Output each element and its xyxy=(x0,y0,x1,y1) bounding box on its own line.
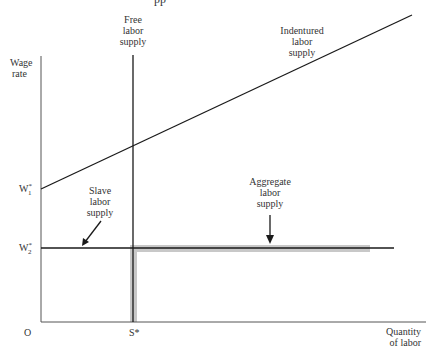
slave-arrow xyxy=(85,221,101,242)
y-axis-label: Wage rate xyxy=(10,57,33,79)
indentured-label: Indentured labor supply xyxy=(272,25,332,58)
indentured-labor-supply-line xyxy=(41,15,412,189)
slave-label: Slave labor supply xyxy=(80,185,120,218)
title-fragment: pp xyxy=(140,0,180,5)
aggregate-label: Aggregate labor supply xyxy=(240,176,300,209)
s-star-label: S* xyxy=(129,327,140,338)
origin-label: O xyxy=(24,327,31,338)
free-label: Free labor supply xyxy=(113,14,153,47)
x-axis-label: Quantity of labor xyxy=(386,326,421,348)
labor-supply-diagram xyxy=(0,0,439,354)
aggregate-arrow-head xyxy=(266,235,274,244)
w2-tick: W*2 xyxy=(19,242,31,253)
w1-tick: W*1 xyxy=(19,183,31,194)
